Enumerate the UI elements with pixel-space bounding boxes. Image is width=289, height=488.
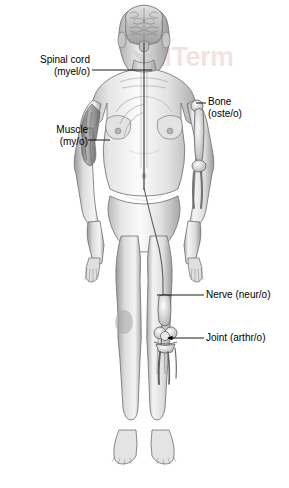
label-spinal-cord-line1: Spinal cord <box>12 54 90 66</box>
label-nerve-line1: Nerve (neur/o) <box>206 289 288 301</box>
patella <box>161 332 170 341</box>
ear-left <box>118 32 126 48</box>
label-spinal-cord-line2: (myel/o) <box>12 66 90 78</box>
label-joint-line1: Joint (arthr/o) <box>206 332 288 344</box>
foot-left <box>114 430 137 464</box>
ear-right <box>162 32 170 48</box>
label-bone-line1: Bone <box>208 96 278 108</box>
figure-body <box>74 5 214 465</box>
diagram-page: alTerm <box>0 0 289 488</box>
humerus-bone <box>191 100 206 172</box>
foot-right <box>151 430 174 464</box>
label-bone-line2: (oste/o) <box>208 108 278 120</box>
label-muscle-line1: Muscle <box>20 124 88 136</box>
arm-right-bone <box>184 100 214 282</box>
label-joint: Joint (arthr/o) <box>206 332 288 344</box>
label-muscle-line2: (my/o) <box>20 136 88 148</box>
label-spinal-cord: Spinal cord (myel/o) <box>12 54 90 77</box>
label-bone: Bone (oste/o) <box>208 96 278 119</box>
label-muscle: Muscle (my/o) <box>20 124 88 147</box>
label-nerve: Nerve (neur/o) <box>206 289 288 301</box>
